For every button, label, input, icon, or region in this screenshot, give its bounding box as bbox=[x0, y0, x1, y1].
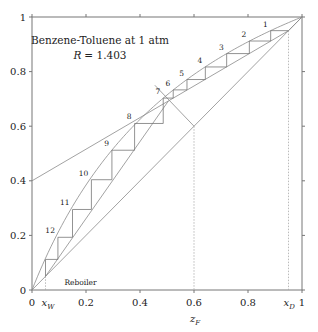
stage-label: 2 bbox=[242, 30, 247, 39]
x-tick-label: 0.4 bbox=[132, 297, 148, 308]
rectifying-line bbox=[32, 31, 289, 181]
y-tick-label: 0 bbox=[20, 285, 26, 296]
stage-label: 8 bbox=[127, 112, 132, 121]
xd-label-sub: D bbox=[288, 303, 295, 311]
reboiler-label: Reboiler bbox=[64, 278, 97, 287]
chart-title: Benzene-Toluene at 1 atm bbox=[31, 34, 169, 46]
subtitle-value: = 1.403 bbox=[84, 49, 126, 61]
chart-subtitle: R= 1.403 bbox=[72, 49, 126, 61]
x-tick-label: 0.8 bbox=[240, 297, 256, 308]
stage-label: 3 bbox=[219, 43, 224, 52]
x-tick-label: 1 bbox=[299, 297, 305, 308]
stage-label: 11 bbox=[60, 198, 70, 207]
stage-label: 4 bbox=[198, 56, 203, 65]
xw-label: xW bbox=[42, 297, 56, 311]
zf-label-sub: F bbox=[194, 319, 201, 327]
y-tick-label: 0.6 bbox=[10, 121, 26, 132]
x-tick-label: 0.6 bbox=[186, 297, 202, 308]
stage-label: 12 bbox=[45, 226, 55, 235]
stripping-line bbox=[46, 101, 169, 276]
y-tick-label: 0.4 bbox=[10, 175, 26, 186]
y-tick-label: 0.8 bbox=[10, 66, 26, 77]
stage-label: 7 bbox=[155, 87, 160, 96]
xd-label: xD bbox=[284, 297, 296, 311]
y-tick-label: 1 bbox=[20, 12, 26, 23]
zf-label: zF bbox=[189, 313, 201, 327]
mccabe-thiele-chart: 00.20.40.60.8100.20.40.60.81 Benzene-Tol… bbox=[0, 0, 318, 332]
labels: Benzene-Toluene at 1 atm R= 1.403 123456… bbox=[31, 20, 295, 327]
stage-label: 5 bbox=[179, 69, 184, 78]
x-tick-label: 0.2 bbox=[78, 297, 94, 308]
stage-label: 6 bbox=[165, 79, 170, 88]
x-tick-label: 0 bbox=[29, 297, 35, 308]
subtitle-var: R bbox=[72, 49, 81, 61]
rectifying-line-ext bbox=[289, 17, 303, 31]
xw-label-sub: W bbox=[47, 303, 55, 311]
stage-label: 9 bbox=[104, 139, 109, 148]
stage-label: 1 bbox=[263, 20, 268, 29]
y-tick-label: 0.2 bbox=[10, 230, 26, 241]
stage-label: 10 bbox=[79, 169, 89, 178]
